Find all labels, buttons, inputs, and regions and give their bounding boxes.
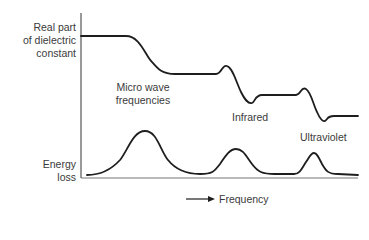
y-label-upper: Real part of dielectric constant — [8, 21, 76, 60]
y-label-lower-line2: loss — [8, 171, 76, 184]
region-label-microwave: Micro wave frequencies — [103, 81, 183, 107]
region-label-microwave-line2: frequencies — [103, 94, 183, 107]
frequency-arrow-head — [208, 196, 215, 202]
x-axis-label: Frequency — [219, 193, 269, 206]
y-label-upper-line3: constant — [8, 47, 76, 60]
y-label-lower: Energy loss — [8, 158, 76, 184]
region-label-ultraviolet: Ultraviolet — [300, 131, 347, 144]
region-label-microwave-line1: Micro wave — [103, 81, 183, 94]
dielectric-constant-curve — [81, 36, 358, 121]
y-label-lower-line1: Energy — [8, 158, 76, 171]
y-label-upper-line1: Real part — [8, 21, 76, 34]
y-label-upper-line2: of dielectric — [8, 34, 76, 47]
region-label-infrared: Infrared — [232, 111, 268, 124]
